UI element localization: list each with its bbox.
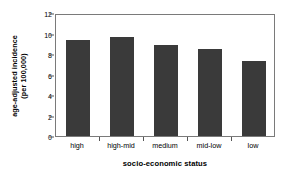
- y-axis-title-line2: (per 100,000): [19, 35, 28, 117]
- x-axis-tick-mark: [231, 137, 232, 141]
- y-axis-tick-mark: [49, 96, 54, 97]
- bar: [154, 45, 178, 136]
- y-axis-title: age-adjusted incidence (per 100,000): [6, 14, 32, 137]
- bar: [110, 37, 134, 136]
- y-axis-tick-mark: [49, 14, 54, 15]
- plot-area: [55, 14, 275, 137]
- y-axis-tick-mark: [49, 55, 54, 56]
- x-axis-tick-label: high-mid: [107, 141, 135, 150]
- bar: [198, 49, 222, 136]
- bar-chart: age-adjusted incidence (per 100,000) 024…: [0, 0, 286, 183]
- x-axis-tick-label: medium: [152, 141, 178, 150]
- x-axis-tick-label: high: [70, 141, 84, 150]
- bar: [242, 61, 266, 136]
- y-axis-tick-mark: [49, 75, 54, 76]
- y-axis-title-line1: age-adjusted incidence: [10, 35, 19, 117]
- x-axis-title: socio-economic status: [55, 159, 275, 168]
- y-axis-tick-mark: [49, 137, 54, 138]
- x-axis-tick-label: low: [248, 141, 259, 150]
- bars-layer: [56, 15, 274, 136]
- x-axis-tick-mark: [143, 137, 144, 141]
- x-axis-tick-label: mid-low: [197, 141, 222, 150]
- x-axis-tick-mark: [99, 137, 100, 141]
- bar: [66, 40, 90, 136]
- y-axis-tick-labels: 024681012: [30, 0, 52, 183]
- x-axis-tick-mark: [187, 137, 188, 141]
- y-axis-tick-mark: [49, 116, 54, 117]
- y-axis-tick-mark: [49, 34, 54, 35]
